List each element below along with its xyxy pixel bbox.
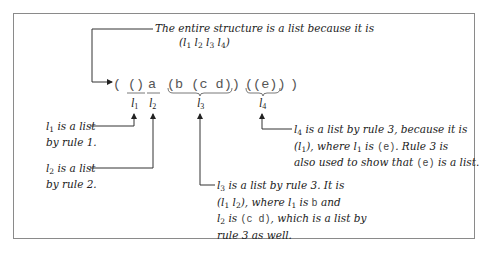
label-l2: l2 — [149, 96, 156, 111]
token-cd: (c d) — [241, 214, 271, 225]
expr-item-3: (b (c d)) — [167, 77, 240, 92]
note-l3: l3 is a list by rule 3. It is (l1 l2), w… — [217, 179, 366, 241]
label-l4: l4 — [259, 96, 266, 111]
label-l1: l1 — [131, 96, 138, 111]
token-b: b — [312, 198, 318, 209]
expr-item-1: () — [128, 77, 144, 92]
entire-structure-note: The entire structure is a list because i… — [155, 22, 374, 35]
note-l4: l4 is a list by rule 3, because it is (l… — [294, 123, 479, 171]
note-l2: l2 is a list by rule 2. — [46, 162, 97, 191]
expr-close-paren: ) — [290, 77, 298, 92]
token-e-2: (e) — [417, 158, 435, 169]
expr-item-4: ((e)) — [245, 77, 286, 92]
label-l3: l3 — [197, 96, 204, 111]
expr-item-2: a — [148, 77, 156, 92]
expr-open-paren: ( — [113, 77, 121, 92]
note-l1: l1 is a list by rule 1. — [46, 120, 97, 149]
token-e: (e) — [377, 142, 395, 153]
entire-structure-formula: (l1 l2 l3 l4) — [179, 36, 230, 52]
